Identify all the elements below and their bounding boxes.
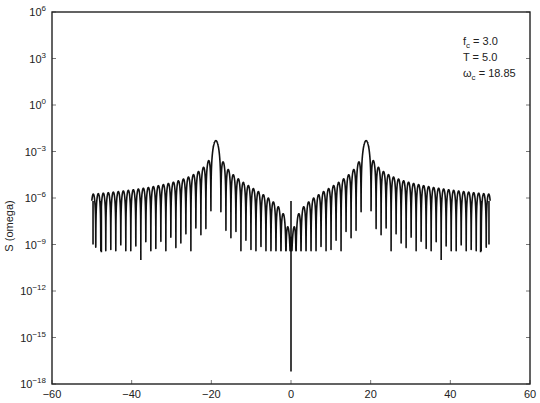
y-tick-label: 103	[29, 51, 46, 65]
y-tick-label: 10−9	[25, 237, 47, 251]
spectrum-chart: S (omega) 10610310010−310−610−910−1210−1…	[0, 0, 540, 403]
x-tick-label: 40	[444, 388, 456, 400]
annotation-line: T = 5.0	[463, 51, 497, 63]
y-axis-label: S (omega)	[3, 200, 15, 251]
spectrum-line	[92, 141, 490, 372]
svg-text:S (omega): S (omega)	[3, 200, 15, 251]
x-tick-label: −60	[43, 388, 62, 400]
x-tick-label: 0	[288, 388, 294, 400]
y-tick-label: 106	[29, 4, 46, 18]
annotation-line: ωc = 18.85	[463, 67, 516, 82]
x-tick-label: 20	[365, 388, 377, 400]
x-tick-label: −20	[202, 388, 221, 400]
y-tick-label: 100	[29, 97, 46, 111]
y-tick-label: 10−12	[20, 283, 46, 297]
parameter-annotation: fc = 3.0T = 5.0ωc = 18.85	[463, 35, 516, 82]
x-axis-ticks: −60−40−200204060	[43, 380, 536, 400]
annotation-line: fc = 3.0	[463, 35, 498, 50]
y-tick-label: 10−6	[25, 190, 47, 204]
y-tick-label: 10−15	[20, 330, 46, 344]
x-tick-label: −40	[122, 388, 141, 400]
x-tick-label: 60	[524, 388, 536, 400]
y-tick-label: 10−3	[25, 144, 47, 158]
